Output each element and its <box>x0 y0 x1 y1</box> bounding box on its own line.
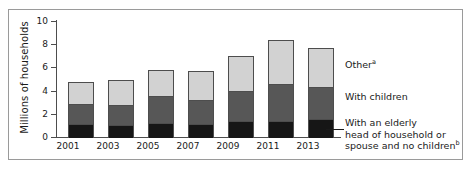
x-tick-label-2005: 2005 <box>128 141 168 151</box>
bar-segment-children-2013[interactable] <box>308 87 334 120</box>
legend-text-other: Other <box>345 59 372 70</box>
bar-segment-other-2005[interactable] <box>148 70 174 97</box>
legend-label-other: Othera <box>345 59 376 71</box>
x-tick-label-2003: 2003 <box>88 141 128 151</box>
legend-text-children: With children <box>345 91 408 102</box>
legend-label-elderly: With an elderlyhead of household orspous… <box>345 117 460 152</box>
bar-2011[interactable] <box>268 40 294 137</box>
chart-figure: Millions of households 10 8 6 4 2 0 <box>0 0 474 171</box>
legend-leader-line <box>326 129 344 130</box>
bar-segment-children-2005[interactable] <box>148 96 174 124</box>
bar-segment-elderly-2009[interactable] <box>228 121 254 138</box>
bar-segment-other-2001[interactable] <box>68 82 94 105</box>
bar-segment-elderly-2011[interactable] <box>268 121 294 138</box>
bar-segment-elderly-2001[interactable] <box>68 124 94 138</box>
bar-segment-children-2011[interactable] <box>268 84 294 122</box>
legend-text-elderly-line1: With an elderly <box>345 117 417 128</box>
bar-segment-other-2003[interactable] <box>108 80 134 106</box>
y-tick-label-10: 10 <box>18 17 48 26</box>
bar-segment-other-2013[interactable] <box>308 48 334 88</box>
bar-segment-other-2009[interactable] <box>228 56 254 92</box>
bar-segment-other-2011[interactable] <box>268 40 294 85</box>
y-tick-label-8: 8 <box>18 40 48 49</box>
legend-sup-other: a <box>372 58 376 66</box>
y-tick-label-6: 6 <box>18 63 48 72</box>
y-tick-label-4: 4 <box>18 87 48 96</box>
plot-area <box>57 21 333 137</box>
legend-sup-elderly: b <box>456 139 460 147</box>
legend-text-elderly-line2: head of household or <box>345 129 446 140</box>
bar-2003[interactable] <box>108 80 134 137</box>
x-tick-label-2007: 2007 <box>168 141 208 151</box>
x-tick-label-2009: 2009 <box>208 141 248 151</box>
bar-2009[interactable] <box>228 56 254 137</box>
legend-label-children: With children <box>345 91 408 103</box>
bar-segment-elderly-2007[interactable] <box>188 124 214 138</box>
legend-text-elderly-line3: spouse and no children <box>345 140 456 151</box>
x-tick-label-2011: 2011 <box>248 141 288 151</box>
bar-2005[interactable] <box>148 70 174 137</box>
bar-segment-other-2007[interactable] <box>188 71 214 101</box>
bar-segment-elderly-2005[interactable] <box>148 123 174 138</box>
x-tick-label-2013: 2013 <box>288 141 328 151</box>
y-tick-label-0: 0 <box>18 133 48 142</box>
y-tick-label-2: 2 <box>18 110 48 119</box>
bar-segment-children-2009[interactable] <box>228 91 254 122</box>
bar-2001[interactable] <box>68 82 94 137</box>
bar-segment-children-2003[interactable] <box>108 105 134 126</box>
bar-segment-children-2001[interactable] <box>68 104 94 125</box>
y-tick-mark-0 <box>51 137 57 138</box>
bar-segment-children-2007[interactable] <box>188 100 214 125</box>
bar-2013[interactable] <box>308 48 334 137</box>
x-tick-label-2001: 2001 <box>48 141 88 151</box>
bar-segment-elderly-2003[interactable] <box>108 125 134 138</box>
bar-2007[interactable] <box>188 71 214 137</box>
y-axis-title: Millions of households <box>19 13 30 143</box>
